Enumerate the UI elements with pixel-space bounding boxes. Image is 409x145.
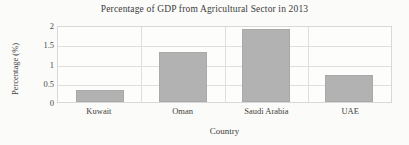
bar-slot — [225, 27, 308, 102]
y-axis-tick: 1.5 — [43, 40, 54, 50]
y-axis-tick-labels: 00.511.52 — [28, 26, 54, 103]
x-axis-label: Country — [57, 126, 392, 136]
y-axis-tick: 0.5 — [43, 79, 54, 89]
bar-oman — [159, 52, 207, 102]
y-axis-label: Percentage (%) — [10, 39, 20, 99]
chart-title: Percentage of GDP from Agricultural Sect… — [0, 4, 409, 14]
y-axis-tick: 0 — [50, 98, 54, 108]
bar-series — [58, 27, 391, 102]
bar-slot — [308, 27, 391, 102]
bar-chart-figure: Percentage of GDP from Agricultural Sect… — [0, 0, 409, 145]
x-axis-tick: Kuwait — [57, 106, 141, 116]
bar-uae — [325, 75, 373, 102]
x-axis-tick: Oman — [141, 106, 225, 116]
y-axis-tick: 1 — [50, 60, 54, 70]
x-axis-tick: UAE — [308, 106, 392, 116]
bar-slot — [141, 27, 224, 102]
bar-kuwait — [76, 90, 124, 102]
x-axis-tick: Saudi Arabia — [225, 106, 309, 116]
y-axis-tick: 2 — [50, 21, 54, 31]
bar-saudi-arabia — [242, 29, 290, 102]
plot-area — [57, 26, 392, 103]
bar-slot — [58, 27, 141, 102]
x-axis-tick-labels: KuwaitOmanSaudi ArabiaUAE — [57, 106, 392, 116]
